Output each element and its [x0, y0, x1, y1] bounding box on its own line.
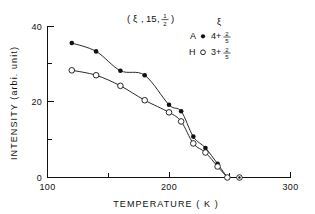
legend-H-fraction-denominator: 5 [225, 54, 229, 60]
data-point-A-0 [70, 41, 75, 46]
legend-item-series-A: A 4+ 2 5 [190, 31, 231, 45]
legend-H-fraction-numerator: 2 [225, 47, 229, 53]
title-fraction-denominator: 2 [163, 21, 167, 27]
data-point-H-4 [166, 110, 172, 116]
figure-container: 0 20 40 100 200 300 TEMPERATURE ( K ) IN… [0, 0, 315, 214]
data-point-H-8 [215, 164, 221, 170]
data-point-A-5 [179, 109, 184, 114]
plot-title: ( ξ , 15 , 1 2 ) [127, 13, 174, 27]
data-point-H-1 [93, 72, 99, 78]
x-tick-label-200: 200 [161, 182, 177, 192]
legend-label-A: A [190, 31, 196, 41]
x-tick-label-300: 300 [283, 182, 299, 192]
title-comma-2: , [157, 13, 160, 24]
data-point-A-2 [118, 68, 123, 73]
series-A [70, 41, 230, 180]
legend-header-xi: ξ [217, 17, 221, 27]
data-point-H-0 [69, 68, 75, 74]
legend-A-fraction-denominator: 5 [225, 38, 229, 44]
curve-H [72, 70, 228, 177]
x-tick-label-100: 100 [40, 182, 56, 192]
x-axis-title: TEMPERATURE ( K ) [113, 199, 219, 209]
legend-value-A-integer: 4+ [211, 31, 221, 41]
y-axis-major-ticks [48, 26, 54, 178]
y-tick-label-0: 0 [37, 173, 42, 183]
title-value-15: 15 [146, 13, 157, 24]
legend-value-H-integer: 3+ [211, 47, 221, 57]
data-point-H-2 [118, 83, 124, 89]
data-point-H-7 [203, 150, 209, 156]
data-point-H-5 [178, 119, 184, 125]
legend-marker-open-circle-icon [201, 50, 206, 55]
data-point-A-4 [167, 102, 172, 107]
legend-item-series-H: H 3+ 2 5 [189, 47, 231, 61]
legend-A-fraction-numerator: 2 [225, 31, 229, 37]
intensity-vs-temperature-chart: 0 20 40 100 200 300 TEMPERATURE ( K ) IN… [0, 0, 315, 214]
zero-point-dot-0 [238, 176, 240, 178]
title-xi-symbol: ξ [133, 13, 138, 24]
legend: ξ A 4+ 2 5 H 3+ 2 5 [189, 17, 231, 60]
y-tick-label-40: 40 [31, 22, 42, 32]
title-close-paren: ) [171, 13, 174, 24]
y-tick-label-20: 20 [31, 97, 42, 107]
data-point-H-9 [225, 175, 231, 181]
legend-marker-filled-circle-icon [201, 34, 205, 38]
data-point-H-3 [142, 97, 148, 103]
x-axis-major-ticks [48, 172, 291, 178]
data-point-A-3 [142, 73, 147, 78]
title-fraction-numerator: 1 [163, 13, 167, 19]
data-point-A-6 [191, 134, 196, 139]
legend-label-H: H [189, 47, 196, 57]
data-series-layer [69, 41, 242, 181]
y-axis-title: INTENSITY (arbi. unit) [9, 46, 19, 160]
title-open-paren: ( [127, 13, 131, 24]
curve-A [72, 43, 228, 177]
data-point-H-6 [191, 141, 197, 147]
title-comma-1: , [141, 13, 144, 24]
series-H [69, 68, 230, 181]
zero-point-0 [237, 175, 243, 181]
data-point-A-1 [94, 49, 99, 54]
